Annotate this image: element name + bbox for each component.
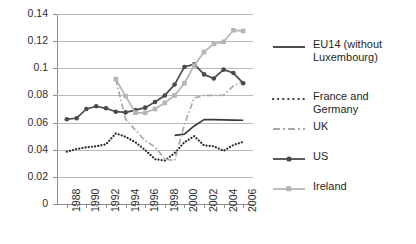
x-tick-mark (145, 204, 146, 208)
data-point-marker (153, 100, 158, 105)
y-tick-label: 0.08 (0, 89, 48, 99)
x-tick-mark (204, 204, 205, 208)
data-point-marker (241, 29, 246, 34)
data-point-marker (163, 101, 168, 106)
y-tick-label: 0 (0, 198, 48, 208)
series-layer (57, 14, 253, 204)
legend-item-us[interactable]: US (272, 150, 328, 165)
plot-area (57, 14, 253, 204)
series-us (65, 62, 246, 122)
legend-swatch (272, 123, 306, 135)
data-point-marker (123, 110, 128, 115)
legend-label: UK (313, 120, 328, 133)
y-tick-label: 0.1 (0, 62, 48, 72)
data-point-marker (231, 71, 236, 76)
x-tick-mark (86, 204, 87, 208)
series-line (67, 133, 243, 160)
data-point-marker (202, 72, 207, 77)
x-tick-mark (126, 204, 127, 208)
data-point-marker (153, 107, 158, 112)
series-france-and-germany (67, 133, 243, 160)
data-point-marker (182, 65, 187, 70)
data-point-marker (143, 105, 148, 110)
data-point-marker (114, 109, 119, 114)
data-point-marker (231, 28, 236, 33)
y-tick-label: 0.12 (0, 35, 48, 45)
data-point-marker (221, 40, 226, 45)
data-point-marker (241, 81, 246, 86)
legend-label: US (313, 150, 328, 163)
x-tick-mark (106, 204, 107, 208)
data-point-marker (94, 104, 99, 109)
data-point-marker (104, 106, 109, 111)
chart-root: 00.020.040.060.080.10.120.14 19881990199… (0, 0, 416, 244)
data-point-marker (123, 94, 128, 99)
y-tick-mark (53, 204, 57, 205)
legend-item-france-and-germany[interactable]: France and Germany (272, 90, 416, 116)
data-point-marker (202, 50, 207, 55)
legend-item-ireland[interactable]: Ireland (272, 180, 347, 195)
data-point-marker (192, 63, 197, 68)
data-point-marker (74, 116, 79, 121)
y-tick-label: 0.06 (0, 117, 48, 127)
legend-swatch (272, 41, 306, 53)
data-point-marker (133, 111, 138, 116)
x-tick-mark (67, 204, 68, 208)
data-point-marker (212, 76, 217, 81)
x-tick-mark (224, 204, 225, 208)
series-line (175, 120, 244, 136)
legend-label: France and Germany (313, 90, 416, 116)
data-point-marker (212, 42, 217, 47)
legend-item-uk[interactable]: UK (272, 120, 328, 135)
legend-label: EU14 (without Luxembourg) (313, 38, 416, 64)
data-point-marker (65, 117, 70, 122)
data-point-marker (221, 67, 226, 72)
data-point-marker (84, 107, 89, 112)
chart-canvas: 00.020.040.060.080.10.120.14 19881990199… (0, 0, 262, 244)
y-tick-label: 0.02 (0, 171, 48, 181)
legend-swatch (272, 153, 306, 165)
x-tick-mark (184, 204, 185, 208)
x-tick-mark (165, 204, 166, 208)
x-tick-mark (243, 204, 244, 208)
legend-swatch (272, 93, 306, 105)
data-point-marker (172, 82, 177, 87)
y-tick-label: 0.04 (0, 144, 48, 154)
legend-item-eu14-without-luxembourg[interactable]: EU14 (without Luxembourg) (272, 38, 416, 64)
data-point-marker (163, 93, 168, 98)
legend-swatch (272, 183, 306, 195)
data-point-marker (182, 81, 187, 86)
data-point-marker (172, 93, 177, 98)
series-eu14-without-luxembourg (175, 120, 244, 136)
y-tick-label: 0.14 (0, 8, 48, 18)
legend-label: Ireland (313, 180, 347, 193)
data-point-marker (114, 77, 119, 82)
data-point-marker (143, 111, 148, 116)
series-ireland (114, 28, 246, 115)
